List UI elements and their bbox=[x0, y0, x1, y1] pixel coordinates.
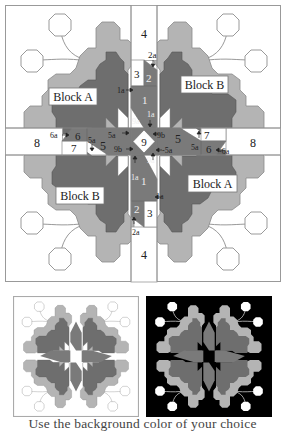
svg-text:Block A: Block A bbox=[193, 177, 233, 191]
block-label-top-left: Block A bbox=[49, 88, 97, 105]
svg-text:5a: 5a bbox=[88, 136, 96, 145]
preview-dark-background bbox=[146, 296, 272, 417]
svg-text:2a: 2a bbox=[132, 228, 140, 237]
piece-8-right: 8 bbox=[250, 136, 256, 150]
svg-text:5: 5 bbox=[175, 132, 181, 146]
svg-text:Block A: Block A bbox=[53, 90, 93, 104]
svg-text:6a: 6a bbox=[50, 131, 58, 140]
svg-text:5a: 5a bbox=[108, 131, 116, 140]
svg-text:9b: 9b bbox=[114, 145, 122, 154]
svg-text:Block B: Block B bbox=[185, 78, 225, 92]
preview-light-background bbox=[13, 296, 139, 417]
svg-text:9a: 9a bbox=[147, 156, 155, 165]
svg-text:1a: 1a bbox=[131, 173, 139, 182]
caption: Use the background color of your choice bbox=[0, 416, 285, 432]
svg-text:Block B: Block B bbox=[60, 189, 100, 203]
svg-text:7: 7 bbox=[204, 129, 210, 141]
block-label-bottom-left: Block B bbox=[56, 187, 104, 204]
svg-text:1: 1 bbox=[141, 175, 147, 187]
piece-4-bottom: 4 bbox=[141, 248, 147, 262]
svg-text:7: 7 bbox=[71, 142, 77, 154]
block-label-bottom-right: Block A bbox=[188, 175, 237, 192]
svg-text:5a: 5a bbox=[191, 143, 199, 152]
svg-text:9b: 9b bbox=[157, 131, 165, 140]
svg-text:3: 3 bbox=[134, 68, 140, 80]
svg-text:2a: 2a bbox=[148, 50, 157, 60]
piece-8-left: 8 bbox=[34, 136, 40, 150]
assembly-diagram: Block A Block B Block B Block A 4 4 8 8 … bbox=[0, 0, 285, 290]
svg-text:1: 1 bbox=[142, 94, 148, 106]
svg-text:2: 2 bbox=[134, 203, 140, 215]
svg-text:6: 6 bbox=[206, 143, 212, 155]
svg-text:-5a: -5a bbox=[162, 146, 173, 155]
block-label-top-right: Block B bbox=[181, 76, 228, 93]
svg-text:6: 6 bbox=[75, 130, 81, 142]
svg-text:3: 3 bbox=[147, 207, 153, 219]
svg-text:5: 5 bbox=[100, 139, 106, 153]
piece-9-center: 9 bbox=[141, 136, 147, 148]
svg-text:-6a: -6a bbox=[219, 147, 230, 156]
svg-text:9a: 9a bbox=[132, 117, 140, 126]
svg-text:2: 2 bbox=[146, 72, 152, 84]
svg-text:1a: 1a bbox=[117, 86, 125, 95]
piece-4-top: 4 bbox=[141, 27, 147, 41]
svg-text:1a: 1a bbox=[147, 110, 155, 119]
